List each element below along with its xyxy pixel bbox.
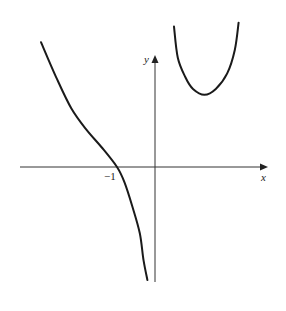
x-axis-label: x bbox=[260, 171, 266, 183]
y-axis-arrow-icon bbox=[152, 55, 159, 63]
x-axis-arrow-icon bbox=[260, 164, 268, 171]
axes: x y −1 bbox=[20, 53, 268, 282]
series-line-right-branch bbox=[174, 23, 239, 95]
series-line-left-branch bbox=[41, 42, 147, 280]
series-layer bbox=[41, 23, 239, 280]
y-axis-label: y bbox=[143, 53, 149, 65]
x-tick-label: −1 bbox=[104, 170, 116, 182]
chart: x y −1 bbox=[0, 0, 286, 311]
